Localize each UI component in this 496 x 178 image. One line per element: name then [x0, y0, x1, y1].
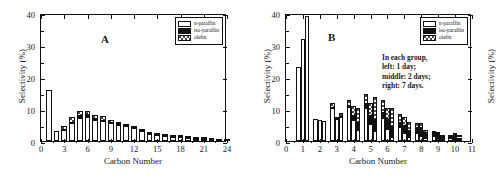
x-tick-minor	[53, 141, 54, 144]
legend-row-n-paraffin: n-paraffin	[178, 21, 219, 28]
x-tick-label: 3	[62, 145, 66, 154]
x-tick-minor	[122, 141, 123, 144]
bar-c1-7-days	[305, 16, 309, 141]
y-tick-minor	[41, 31, 44, 32]
y-tick-minor	[41, 127, 44, 128]
x-tick-minor	[464, 141, 465, 144]
y-tick-minor	[286, 31, 289, 32]
y-tick-label: 10	[272, 107, 281, 116]
y-tick-right	[223, 15, 227, 16]
y-tick	[286, 47, 290, 48]
x-tick-top	[404, 15, 405, 19]
bar-c4	[69, 117, 75, 141]
x-tick	[181, 139, 182, 143]
y-tick-label: 20	[272, 75, 281, 84]
legend-row-olefin: olefin	[423, 35, 464, 42]
bar-c13	[139, 130, 145, 141]
note-line-2: left: 1 day;	[382, 62, 430, 71]
bar-c17	[170, 136, 176, 141]
x-tick-label: 11	[468, 145, 476, 154]
x-tick	[472, 139, 473, 143]
y-tick-minor	[286, 95, 289, 96]
plot-area-b: 01234567891011 010203040 B n-paraffin is…	[285, 14, 471, 142]
bar-segment-ip	[440, 137, 444, 140]
bar-segment-np	[123, 126, 129, 141]
x-tick-label: 9	[436, 145, 440, 154]
legend-label-olefin: olefin	[439, 35, 452, 40]
y-tick-right	[223, 47, 227, 48]
bar-c2-7-days	[322, 121, 326, 141]
y-tick-label: 40	[272, 11, 281, 20]
bar-c16	[162, 135, 168, 141]
x-tick-top	[227, 15, 228, 19]
y-tick-label: 40	[27, 11, 36, 20]
bar-segment-ol	[162, 134, 168, 136]
y-tick-right	[468, 79, 472, 80]
x-tick-top	[88, 15, 89, 19]
bar-segment-np	[162, 136, 168, 141]
bar-c7-7-days	[407, 122, 411, 141]
bar-segment-ol	[330, 103, 334, 107]
x-tick-top	[337, 15, 338, 19]
bar-segment-ol	[77, 111, 83, 116]
x-tick	[303, 139, 304, 143]
x-tick	[371, 139, 372, 143]
x-tick-label: 7	[402, 145, 406, 154]
bar-c5-7-days	[373, 97, 377, 141]
y-tick	[41, 143, 45, 144]
x-tick-minor	[328, 141, 329, 144]
bar-c22	[209, 139, 215, 141]
x-tick-minor	[311, 141, 312, 144]
y-tick-right	[468, 111, 472, 112]
x-tick-minor	[396, 141, 397, 144]
x-tick-minor	[215, 141, 216, 144]
x-axis-title-a: Carbon Number	[40, 156, 226, 166]
x-tick	[320, 139, 321, 143]
x-tick	[354, 139, 355, 143]
x-tick-minor	[413, 141, 414, 144]
x-tick-label: 0	[284, 145, 288, 154]
x-tick-label: 15	[153, 145, 162, 154]
bar-segment-np	[85, 117, 91, 141]
bar-segment-np	[356, 130, 360, 141]
x-tick	[438, 139, 439, 143]
bar-segment-ol	[131, 126, 137, 128]
x-tick-top	[64, 15, 65, 19]
bar-segment-np	[339, 117, 343, 141]
bar-c6-7-days	[390, 108, 394, 141]
bar-segment-np	[139, 131, 145, 141]
x-tick-label: 12	[130, 145, 139, 154]
legend-label-n-paraffin: n-paraffin	[439, 21, 460, 26]
y-tick-minor	[286, 127, 289, 128]
bar-segment-ol	[147, 132, 153, 134]
x-tick-top	[472, 15, 473, 19]
x-tick	[157, 139, 158, 143]
y-tick-minor	[41, 63, 44, 64]
x-tick-label: 18	[176, 145, 185, 154]
note-line-1: In each group,	[382, 53, 430, 62]
bar-c2	[54, 131, 60, 141]
bar-segment-ol	[373, 97, 377, 120]
x-tick-top	[371, 15, 372, 19]
bar-segment-np	[322, 121, 326, 141]
bar-segment-ol	[170, 135, 176, 137]
x-tick-minor	[192, 141, 193, 144]
bar-c1	[46, 90, 52, 141]
y-tick-label: 20	[27, 75, 36, 84]
bar-segment-np	[147, 134, 153, 141]
legend-row-olefin: olefin	[178, 35, 219, 42]
bar-segment-ol	[185, 136, 191, 138]
x-tick-label: 6	[85, 145, 89, 154]
bar-segment-np	[77, 118, 83, 141]
bar-segment-np	[193, 139, 199, 141]
bar-c10-7-days	[457, 137, 461, 141]
x-tick-minor	[146, 141, 147, 144]
x-tick	[204, 139, 205, 143]
y-tick-minor	[41, 95, 44, 96]
bar-c5	[77, 111, 83, 141]
x-tick-minor	[430, 141, 431, 144]
y-tick-right	[223, 79, 227, 80]
bar-c8-7-days	[423, 130, 427, 141]
x-tick	[134, 139, 135, 143]
